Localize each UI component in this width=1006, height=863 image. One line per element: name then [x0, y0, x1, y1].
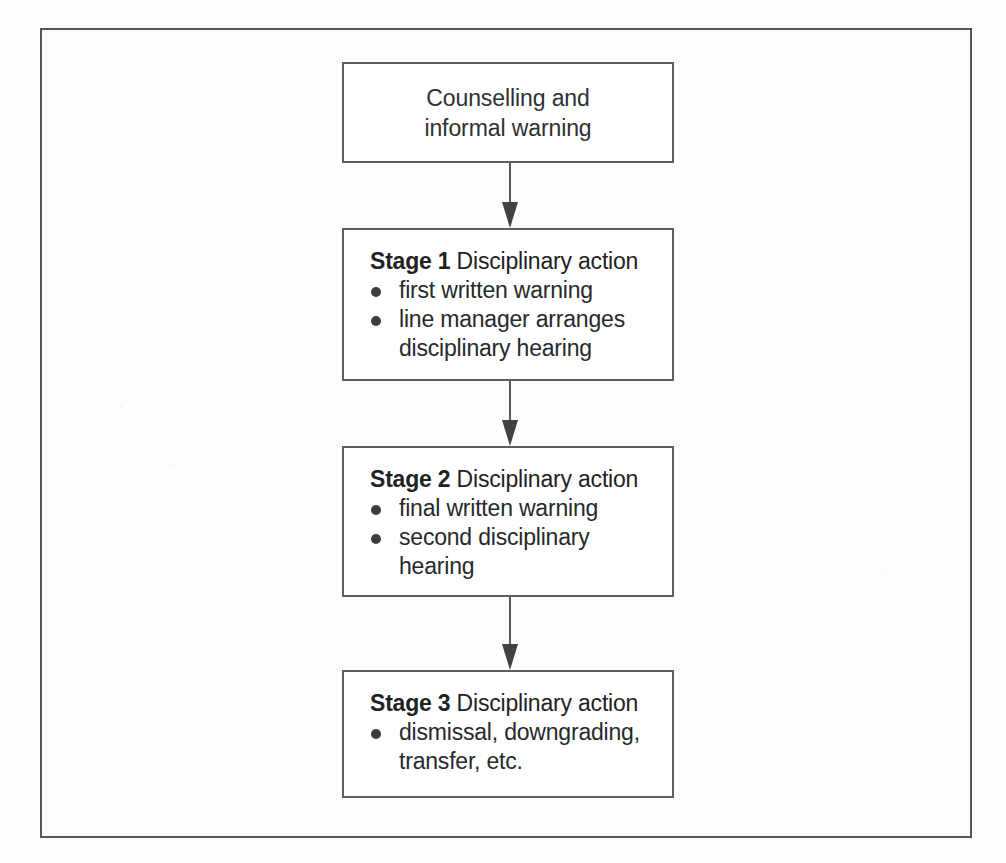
list-item: first written warning: [370, 276, 660, 305]
bullet-dot-icon: [371, 287, 381, 297]
arrow-head: [502, 420, 518, 446]
list-item: second disciplinary hearing: [370, 523, 660, 581]
list-item-text: final written warning: [399, 495, 598, 521]
node-stage-2[interactable]: Stage 2 Disciplinary action final writte…: [342, 446, 674, 597]
node-stage-2-label: Stage 2: [370, 466, 450, 492]
node-counselling-line-1: Counselling and: [344, 83, 672, 113]
arrow-shaft: [509, 597, 511, 644]
flowchart-page: Counselling and informal warning Stage 1…: [0, 0, 1006, 863]
arrow-shaft: [509, 381, 511, 420]
list-item-text: second disciplinary hearing: [399, 524, 590, 579]
node-counselling-text: Counselling and informal warning: [344, 83, 672, 143]
node-stage-3-heading-rest: Disciplinary action: [450, 690, 638, 716]
node-stage-2-bullets: final written warning second disciplinar…: [370, 494, 660, 581]
bullet-dot-icon: [371, 729, 381, 739]
node-stage-1-heading-rest: Disciplinary action: [450, 248, 638, 274]
node-stage-1-label: Stage 1: [370, 248, 450, 274]
node-stage-2-heading: Stage 2 Disciplinary action: [370, 465, 660, 494]
arrow-head: [502, 644, 518, 670]
list-item-text: dismissal, downgrading, transfer, etc.: [399, 719, 640, 774]
node-stage-1-bullets: first written warning line manager arran…: [370, 276, 660, 363]
node-counselling[interactable]: Counselling and informal warning: [342, 62, 674, 163]
node-stage-1-content: Stage 1 Disciplinary action first writte…: [370, 247, 660, 363]
node-stage-1-heading: Stage 1 Disciplinary action: [370, 247, 660, 276]
node-stage-3-heading: Stage 3 Disciplinary action: [370, 689, 660, 718]
node-stage-1[interactable]: Stage 1 Disciplinary action first writte…: [342, 228, 674, 381]
node-stage-2-heading-rest: Disciplinary action: [450, 466, 638, 492]
down-arrow-icon-3: [502, 597, 518, 670]
down-arrow-icon-1: [502, 163, 518, 228]
list-item: final written warning: [370, 494, 660, 523]
arrow-head: [502, 202, 518, 228]
node-stage-3[interactable]: Stage 3 Disciplinary action dismissal, d…: [342, 670, 674, 798]
bullet-dot-icon: [371, 316, 381, 326]
node-stage-2-content: Stage 2 Disciplinary action final writte…: [370, 465, 660, 581]
node-stage-3-content: Stage 3 Disciplinary action dismissal, d…: [370, 689, 660, 776]
list-item-text: line manager arranges disciplinary heari…: [399, 306, 625, 361]
list-item: dismissal, downgrading, transfer, etc.: [370, 718, 660, 776]
node-counselling-line-2: informal warning: [344, 113, 672, 143]
list-item: line manager arranges disciplinary heari…: [370, 305, 660, 363]
node-stage-3-label: Stage 3: [370, 690, 450, 716]
down-arrow-icon-2: [502, 381, 518, 446]
list-item-text: first written warning: [399, 277, 593, 303]
arrow-shaft: [509, 163, 511, 202]
bullet-dot-icon: [371, 505, 381, 515]
bullet-dot-icon: [371, 534, 381, 544]
node-stage-3-bullets: dismissal, downgrading, transfer, etc.: [370, 718, 660, 776]
